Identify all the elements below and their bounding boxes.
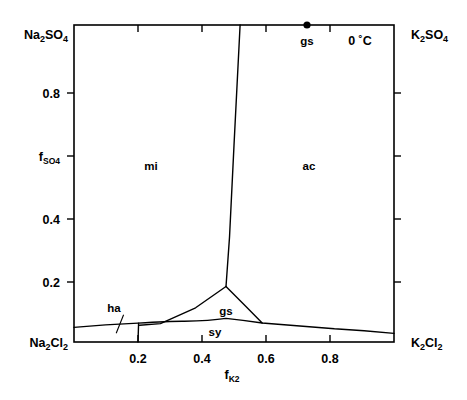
corner-label-top-left: Na2SO4 <box>24 28 68 44</box>
phase-diagram-figure: Na2SO4 K2SO4 Na2Cl2 K2Cl2 0.8 fSO4 0.4 0… <box>0 0 467 400</box>
corner-bl-sub2: 2 <box>63 342 68 352</box>
curve-halite-sylvite-divide <box>138 323 139 342</box>
y-tick-label-0-8: 0.8 <box>43 87 60 101</box>
corner-tr-sub2: 4 <box>443 34 448 44</box>
phase-label-gs-lower: gs <box>219 305 232 317</box>
phase-label-mi: mi <box>144 160 157 172</box>
x-axis-ticks <box>138 335 330 342</box>
glaserite-invariant-point-marker <box>303 21 310 28</box>
corner-label-bottom-right: K2Cl2 <box>411 336 443 352</box>
x-tick-label-0-2: 0.2 <box>129 352 146 366</box>
x-tick-label-0-8: 0.8 <box>321 352 338 366</box>
corner-tr-mid: SO <box>425 28 443 42</box>
corner-label-top-right: K2SO4 <box>411 28 448 44</box>
x-axis-label-sub: K2 <box>229 374 240 384</box>
corner-br-mid: Cl <box>425 336 438 350</box>
phase-label-ha: ha <box>107 302 121 314</box>
x-tick-label-0-4: 0.4 <box>193 352 210 366</box>
corner-label-bottom-left: Na2Cl2 <box>29 336 68 352</box>
corner-tl-main: Na <box>24 28 41 42</box>
phase-label-ac: ac <box>303 160 316 172</box>
corner-tr-main: K <box>411 28 420 42</box>
corner-bl-mid: Cl <box>50 336 63 350</box>
y-tick-label-0-2: 0.2 <box>43 276 60 290</box>
phase-label-sy: sy <box>209 326 222 338</box>
phase-diagram-svg: Na2SO4 K2SO4 Na2Cl2 K2Cl2 0.8 fSO4 0.4 0… <box>0 0 467 400</box>
temperature-annotation: 0 ˚C <box>348 34 372 48</box>
curve-mirabilite-arcanite-boundary <box>226 25 240 287</box>
corner-tl-mid: SO <box>45 28 63 42</box>
y-axis-label-sub: SO4 <box>43 156 60 166</box>
y-axis-ticks <box>67 93 74 282</box>
corner-br-sub2: 2 <box>438 342 443 352</box>
corner-br-main: K <box>411 336 420 350</box>
y-axis-ticks-right <box>394 93 401 282</box>
corner-bl-main: Na <box>29 336 46 350</box>
y-tick-label-0-4: 0.4 <box>43 213 60 227</box>
curve-halite-sylvite-solubility <box>74 318 394 333</box>
x-axis-label: fK2 <box>224 368 239 384</box>
y-axis-label: fSO4 <box>39 150 60 166</box>
corner-tl-sub2: 4 <box>63 34 68 44</box>
phase-label-gs-top: gs <box>300 35 313 47</box>
x-tick-label-0-6: 0.6 <box>257 352 274 366</box>
x-axis-ticks-top <box>138 25 330 32</box>
